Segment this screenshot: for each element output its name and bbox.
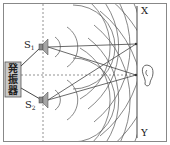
frame-border (4, 4, 167, 142)
oscillator-char-1: 発 (7, 62, 19, 74)
oscillator-box: 発 振 器 (5, 62, 21, 97)
ear-icon (142, 65, 153, 86)
wire-s2 (21, 88, 40, 99)
label-s1: S1 (24, 39, 35, 51)
label-x: X (141, 5, 149, 16)
label-y: Y (140, 127, 148, 138)
oscillator-char-2: 振 (8, 73, 18, 85)
label-s2: S2 (25, 99, 36, 111)
speaker-s2-icon (39, 92, 48, 108)
rays (48, 44, 136, 100)
speaker-s1-icon (39, 39, 48, 55)
oscillator-char-3: 器 (7, 85, 19, 96)
interference-diagram: X Y S1 S2 発 振 器 (0, 0, 170, 145)
